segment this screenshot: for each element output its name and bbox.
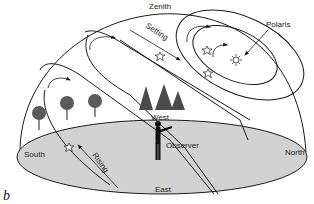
celestial-sphere-diagram: Zenith Setting Polaris West Observer Sou… <box>0 0 314 204</box>
star-circumpolar-1-icon <box>202 46 212 55</box>
arrow-arc-2 <box>90 37 115 50</box>
label-setting: Setting <box>144 21 170 42</box>
panel-label: b <box>3 188 10 203</box>
circumpolar-arrow-inner <box>213 45 227 57</box>
arrow-arc-1 <box>48 78 70 88</box>
polaris-icon <box>230 54 242 66</box>
label-polaris: Polaris <box>266 20 290 29</box>
circumpolar-arrow-outer <box>187 26 210 42</box>
conifer-trees <box>139 84 185 110</box>
label-zenith: Zenith <box>149 2 171 11</box>
star-setting-icon <box>155 52 165 61</box>
label-observer: Observer <box>166 141 199 150</box>
label-west: West <box>151 113 170 122</box>
label-south: South <box>24 150 45 159</box>
label-east: East <box>155 185 172 194</box>
label-north: North <box>285 148 305 157</box>
